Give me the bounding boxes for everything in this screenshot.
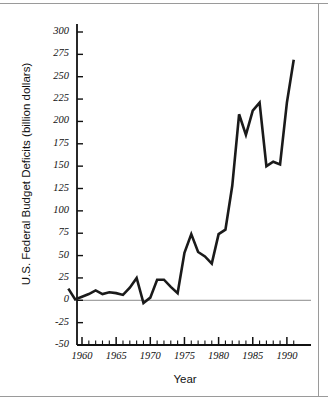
x-axis-title: Year: [60, 373, 310, 385]
x-tick-label: 1990: [267, 350, 307, 361]
y-tick-label: 100: [33, 204, 69, 215]
y-tick-label: 225: [33, 92, 69, 103]
y-tick-label: 200: [33, 114, 69, 125]
y-tick-label: -50: [33, 338, 69, 349]
y-tick-label: 150: [33, 159, 69, 170]
y-tick-label: -25: [33, 316, 69, 327]
y-tick-label: 25: [33, 271, 69, 282]
data-series-line: [68, 60, 293, 303]
y-tick-label: 0: [33, 293, 69, 304]
y-tick-label: 250: [33, 70, 69, 81]
y-tick-label: 275: [33, 47, 69, 58]
y-tick-label: 75: [33, 226, 69, 237]
y-axis-title: U.S. Federal Budget Deficits (billion do…: [20, 44, 32, 304]
y-tick-label: 175: [33, 137, 69, 148]
y-tick-label: 300: [33, 25, 69, 36]
y-tick-label: 50: [33, 249, 69, 260]
y-tick-label: 125: [33, 182, 69, 193]
axis-group: [77, 24, 311, 345]
chart-figure: 3002752502252001751501251007550250-25-50…: [0, 0, 328, 407]
plot-area: 3002752502252001751501251007550250-25-50…: [0, 0, 328, 407]
tick-marks: [77, 32, 294, 345]
